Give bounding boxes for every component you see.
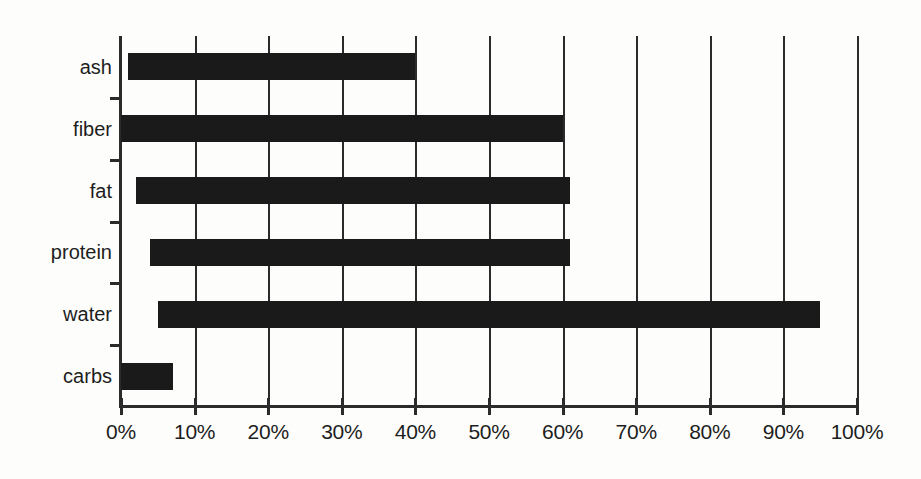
x-axis-tick-50 — [488, 398, 491, 415]
x-axis-label-70: 70% — [616, 420, 657, 444]
gridline-20 — [268, 36, 270, 407]
y-axis-label-fiber: fiber — [4, 119, 112, 139]
gridline-100 — [857, 36, 859, 407]
y-axis-label-protein: protein — [4, 242, 112, 262]
gridline-30 — [342, 36, 344, 407]
y-axis-label-fat: fat — [4, 181, 112, 201]
y-axis-label-water: water — [4, 304, 112, 324]
bar-water[interactable] — [158, 301, 820, 328]
x-axis-tick-70 — [635, 398, 638, 415]
gridline-80 — [710, 36, 712, 407]
x-axis-label-0: 0% — [106, 420, 136, 444]
gridline-70 — [636, 36, 638, 407]
x-axis-label-50: 50% — [468, 420, 509, 444]
x-axis-label-20: 20% — [248, 420, 289, 444]
plot-area — [121, 36, 857, 407]
bar-ash[interactable] — [128, 53, 415, 80]
y-axis-label-carbs: carbs — [4, 366, 112, 386]
x-axis-tick-60 — [562, 398, 565, 415]
x-axis-label-80: 80% — [689, 420, 730, 444]
gridline-40 — [415, 36, 417, 407]
x-axis-tick-80 — [709, 398, 712, 415]
x-axis-label-30: 30% — [321, 420, 362, 444]
gridline-60 — [563, 36, 565, 407]
x-axis-label-60: 60% — [542, 420, 583, 444]
x-axis-tick-100 — [856, 398, 859, 415]
bar-chart: ashfiberfatproteinwatercarbs 0%10%20%30%… — [0, 0, 921, 479]
gridline-90 — [783, 36, 785, 407]
x-axis-tick-10 — [194, 398, 197, 415]
bar-fat[interactable] — [136, 177, 570, 204]
x-axis-tick-40 — [414, 398, 417, 415]
bar-fiber[interactable] — [121, 115, 563, 142]
x-axis-label-100: 100% — [831, 420, 884, 444]
x-axis-tick-20 — [267, 398, 270, 415]
x-axis-label-40: 40% — [395, 420, 436, 444]
x-axis-tick-0 — [120, 398, 123, 415]
y-axis-label-ash: ash — [4, 57, 112, 77]
x-axis-label-90: 90% — [763, 420, 804, 444]
bar-carbs[interactable] — [121, 363, 173, 390]
x-axis-tick-90 — [782, 398, 785, 415]
gridline-10 — [195, 36, 197, 407]
x-axis-tick-30 — [341, 398, 344, 415]
bar-protein[interactable] — [150, 239, 570, 266]
x-axis-label-10: 10% — [174, 420, 215, 444]
gridline-50 — [489, 36, 491, 407]
y-axis-label-group: ashfiberfatproteinwatercarbs — [0, 0, 112, 479]
